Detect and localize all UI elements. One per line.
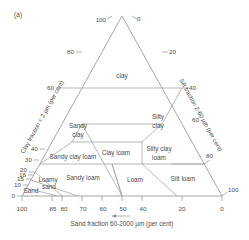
sand-tick-60: 60	[100, 205, 107, 212]
clay-tick-100: 100	[96, 16, 107, 23]
region-silt-loam: Silt loam	[171, 175, 196, 182]
sand-tick-40: 40	[140, 205, 147, 212]
sand-axis-title-group: Sand fraction 60-2000 µm (per cent)	[71, 214, 174, 228]
region-loamy-sand-l2: sand	[42, 183, 56, 190]
region-sandy-loam: Sandy loam	[66, 174, 100, 182]
region-silty-clay-l1: Silty	[152, 113, 165, 121]
silt-tick-100: 100	[228, 186, 239, 193]
region-sandy-clay-l2: clay	[72, 131, 84, 139]
silt-tick-0: 0	[137, 15, 141, 22]
sand-tick-20: 20	[179, 205, 186, 212]
region-silty-clay-l2: clay	[152, 122, 164, 130]
sand-axis-tick-labels: 100 85 80 70 60 50 40 20 0	[17, 205, 224, 212]
region-silty-clay-loam-l2: loam	[152, 154, 166, 161]
silt-axis-title: Silt fraction 2-60 µm (per cent)	[178, 77, 224, 152]
sand-axis-ticks	[22, 196, 222, 201]
sand-tick-0: 0	[220, 205, 224, 212]
soil-texture-triangle: 0 10 15 18 20 30 40 60 80 100 0 20 40 60…	[0, 0, 249, 240]
sand-tick-80: 80	[61, 205, 68, 212]
clay-axis-ticks	[17, 16, 112, 196]
clay-tick-40: 40	[31, 145, 38, 152]
sand-axis-title: Sand fraction 60-2000 µm (per cent)	[71, 220, 174, 228]
clay-tick-20: 20	[20, 166, 27, 173]
silt-tick-60: 60	[192, 116, 199, 123]
clay-tick-80: 80	[67, 48, 74, 55]
silt-tick-20: 20	[169, 48, 176, 55]
clay-tick-10: 10	[14, 181, 21, 188]
region-sandy-clay-loam: Sandy clay loam	[50, 153, 97, 161]
sand-tick-100: 100	[17, 205, 28, 212]
sand-tick-85: 85	[50, 205, 57, 212]
silt-axis-ticks	[132, 16, 227, 196]
sand-tick-70: 70	[80, 205, 87, 212]
silt-axis-tick-labels: 0 20 40 60 80 100	[137, 15, 239, 193]
region-silty-clay-loam-l1: Silty clay	[146, 145, 172, 153]
clay-axis-title: Clay fraction < 2 µm (per cent)	[19, 79, 65, 154]
clay-tick-0: 0	[12, 192, 16, 199]
figure-panel: (a)	[0, 0, 249, 240]
triangle-outline	[22, 16, 222, 196]
region-loam: Loam	[127, 176, 143, 183]
arrow-left-icon	[112, 214, 116, 218]
clay-axis-tick-labels: 0 10 15 18 20 30 40 60 80 100	[12, 16, 107, 199]
region-clay: clay	[116, 72, 128, 80]
silt-tick-80: 80	[206, 152, 213, 159]
clay-tick-30: 30	[25, 156, 32, 163]
sand-tick-50: 50	[120, 205, 127, 212]
region-sand: Sand	[24, 187, 39, 194]
region-sandy-clay-l1: Sandy	[69, 122, 88, 130]
region-clay-loam: Clay loam	[102, 149, 130, 157]
